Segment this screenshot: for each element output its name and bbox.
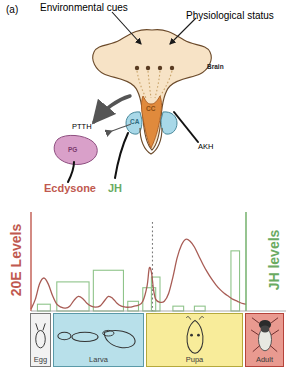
jh-bar [37, 304, 50, 311]
neuron-dot [135, 66, 139, 70]
stage-label-egg: Egg [31, 355, 50, 364]
ca-label: CA [130, 118, 139, 125]
stage-panel-adult[interactable]: Adult [245, 313, 284, 367]
larva-icon [56, 320, 142, 352]
jh-bar [128, 301, 139, 311]
cc-label: CC [146, 105, 155, 112]
jh-bar [57, 282, 89, 311]
arrow-ptth-source [94, 96, 130, 122]
stage-artwork-larva [54, 317, 143, 355]
stage-panel-pupa[interactable]: Pupa [146, 313, 243, 367]
stage-artwork-egg [31, 317, 50, 355]
stage-panel-larva[interactable]: Larva [53, 313, 144, 367]
corpora-allata-right-shape [161, 112, 177, 134]
jh-bar [151, 277, 160, 311]
stage-label-larva: Larva [54, 355, 143, 364]
jh-bar [231, 251, 240, 311]
stage-label-pupa: Pupa [147, 355, 242, 364]
leader-akh [174, 112, 198, 142]
akh-label: AKH [198, 142, 213, 151]
jh-bar [173, 306, 184, 311]
ptth-label: PTTH [72, 122, 92, 131]
curve-ecdysone [31, 239, 246, 309]
stage-label-adult: Adult [246, 355, 283, 364]
jh-bar [93, 270, 123, 311]
neuron-dot [158, 66, 162, 70]
jh-bar [143, 288, 156, 311]
stage-artwork-pupa [147, 317, 242, 355]
stage-panel-egg[interactable]: Egg [30, 313, 51, 367]
neuroendocrine-diagram [0, 0, 307, 200]
axis-label-20e: 20E Levels [8, 220, 24, 300]
neuron-dot [170, 66, 174, 70]
legend-jh: JH [108, 182, 122, 194]
jh-bar [194, 306, 205, 311]
egg-icon [31, 319, 50, 353]
legend-ecdysone: Ecdysone [44, 182, 96, 194]
chart-bars [37, 251, 239, 311]
corpora-cardiaca-shape [141, 96, 161, 148]
brain-label: Brain [207, 63, 224, 70]
stage-artwork-adult [246, 317, 283, 355]
axis-label-jh: JH levels [266, 220, 282, 300]
pupa-icon [182, 316, 208, 356]
leader-jh [115, 133, 128, 178]
pg-label: PG [68, 146, 77, 153]
leader-ecdysone [68, 162, 74, 182]
neuron-dot [146, 66, 150, 70]
figure-panel-a: (a) Environmental cues Physiological sta… [0, 0, 307, 375]
adult-fly-icon [250, 316, 280, 356]
